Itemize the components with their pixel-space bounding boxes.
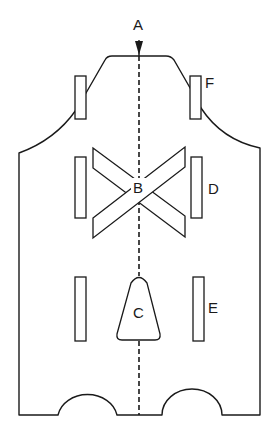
label-f: F (205, 74, 214, 91)
slot-d-right (191, 157, 202, 218)
label-e: E (208, 299, 218, 316)
slot-f-left (75, 76, 86, 119)
label-b: B (133, 179, 143, 196)
label-a: A (133, 16, 143, 33)
slot-d-left (75, 157, 86, 218)
diagram-canvas: A B C D E F (0, 0, 278, 432)
slot-f-right (190, 76, 201, 119)
slot-e-left (75, 277, 86, 341)
label-d: D (208, 180, 219, 197)
slot-e-right (193, 277, 204, 341)
label-c: C (133, 304, 144, 321)
